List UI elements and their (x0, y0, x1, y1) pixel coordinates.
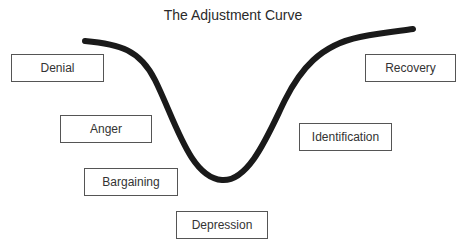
stage-box-denial: Denial (11, 54, 104, 82)
stage-label-recovery: Recovery (385, 61, 436, 75)
stage-box-bargaining: Bargaining (84, 168, 178, 196)
stage-box-identification: Identification (299, 123, 392, 151)
stage-label-depression: Depression (192, 218, 253, 232)
stage-box-depression: Depression (176, 211, 268, 239)
stage-label-identification: Identification (312, 130, 379, 144)
stage-label-anger: Anger (90, 122, 122, 136)
stage-box-anger: Anger (60, 115, 152, 143)
stage-label-denial: Denial (40, 61, 74, 75)
stage-box-recovery: Recovery (365, 54, 456, 82)
stage-label-bargaining: Bargaining (102, 175, 159, 189)
adjustment-curve-line (85, 29, 413, 180)
